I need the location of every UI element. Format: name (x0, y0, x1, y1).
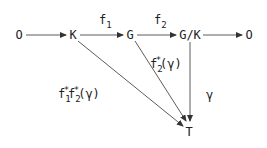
label-gamma: γ (206, 89, 213, 101)
label-f1: f1 (99, 14, 112, 27)
f2s-sub: 2 (157, 64, 162, 74)
f2t-sub: 2 (75, 94, 80, 104)
label-f1-star-f2-star-gamma: f1*f2*(γ) (58, 88, 100, 101)
f2t-arg: (γ) (78, 87, 100, 101)
f1s-sub: 1 (65, 94, 70, 104)
f2s-arg: (γ) (160, 57, 182, 71)
arrow-K-to-T (78, 41, 183, 126)
node-zero-right: O (245, 29, 252, 41)
arrows-layer (0, 0, 267, 148)
label-f2-star-gamma: f2*(γ) (150, 58, 182, 71)
node-T: T (185, 126, 192, 138)
node-G: G (126, 29, 133, 41)
f1s-sup: * (64, 85, 69, 95)
f2t-sup: * (74, 85, 79, 95)
f2-sub: 2 (161, 20, 166, 30)
f2s-sup: * (156, 55, 161, 65)
arrow-G-to-T (135, 41, 186, 121)
node-K: K (69, 29, 76, 41)
label-f2: f2 (154, 14, 167, 27)
f1-sub: 1 (106, 20, 111, 30)
node-zero-left: O (15, 29, 22, 41)
node-G-mod-K: G/K (179, 29, 201, 41)
